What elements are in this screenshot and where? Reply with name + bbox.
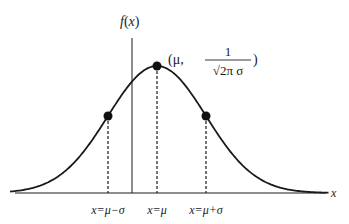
point-peak [153, 62, 162, 71]
peak-label: (μ, 1 √2π σ ) [168, 44, 258, 78]
peak-label-numerator: 1 [225, 44, 232, 59]
normal-distribution-diagram: f(x) x (μ, 1 √2π σ ) x=μ−σ x=μ x=μ+σ [0, 0, 349, 224]
bell-curve [10, 66, 329, 193]
peak-label-prefix: (μ, [168, 52, 184, 68]
tick-label-mu-plus-sigma: x=μ+σ [188, 203, 224, 217]
peak-label-denominator: √2π σ [213, 63, 243, 78]
peak-label-suffix: ) [253, 52, 258, 68]
x-axis-label: x [330, 186, 337, 200]
point-inflection-left [104, 111, 113, 120]
y-axis-label: f(x) [120, 14, 140, 30]
tick-label-mu: x=μ [146, 203, 166, 217]
point-inflection-right [202, 111, 211, 120]
tick-label-mu-minus-sigma: x=μ−σ [90, 203, 126, 217]
